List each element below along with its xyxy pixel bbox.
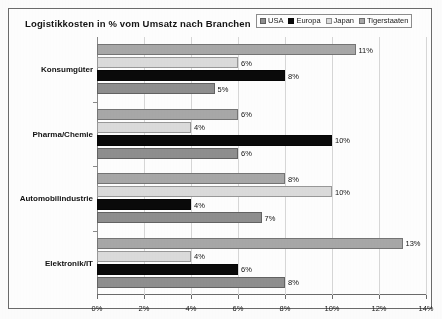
bar-usa-2[interactable]	[97, 212, 262, 223]
bar-value-label: 6%	[238, 110, 252, 119]
bar-usa-0[interactable]	[97, 83, 215, 94]
plot-inner: 0%2%4%6%8%10%12%14%11%6%8%5%6%4%10%6%8%1…	[97, 37, 426, 295]
bar-europa-2[interactable]	[97, 199, 191, 210]
axis-tick	[238, 295, 239, 299]
bar-value-label: 10%	[332, 136, 350, 145]
bar-row: 4%	[97, 251, 426, 262]
x-tick-label: 2%	[139, 304, 150, 313]
bar-value-label: 8%	[285, 278, 299, 287]
bar-value-label: 8%	[285, 71, 299, 80]
plot-area: 0%2%4%6%8%10%12%14%11%6%8%5%6%4%10%6%8%1…	[97, 37, 426, 295]
bar-value-label: 5%	[215, 84, 229, 93]
grid-line	[426, 37, 427, 295]
bar-japan-1[interactable]	[97, 122, 191, 133]
bar-europa-1[interactable]	[97, 135, 332, 146]
bar-usa-3[interactable]	[97, 277, 285, 288]
axis-tick	[144, 295, 145, 299]
bar-value-label: 11%	[356, 45, 373, 54]
bar-row: 4%	[97, 122, 426, 133]
bar-row: 5%	[97, 83, 426, 94]
bar-group: 11%6%8%5%	[97, 37, 426, 102]
bar-value-label: 4%	[191, 252, 205, 261]
bar-row: 10%	[97, 186, 426, 197]
bar-europa-3[interactable]	[97, 264, 238, 275]
bar-value-label: 8%	[285, 174, 299, 183]
bar-row: 8%	[97, 70, 426, 81]
category-label-0: Konsumgüter	[41, 65, 93, 74]
bar-row: 7%	[97, 212, 426, 223]
bar-row: 8%	[97, 277, 426, 288]
category-label-1: Pharma/Chemie	[33, 129, 93, 138]
legend-swatch-icon	[359, 18, 365, 24]
legend-item-tigerstaaten[interactable]: Tigerstaaten	[359, 17, 408, 25]
axis-tick	[426, 295, 427, 299]
x-tick-label: 12%	[371, 304, 386, 313]
bar-tigerstaaten-3[interactable]	[97, 238, 403, 249]
legend-label: Japan	[334, 17, 354, 25]
bar-group: 6%4%10%6%	[97, 102, 426, 167]
bar-japan-0[interactable]	[97, 57, 238, 68]
chart-frame: Logistikkosten in % vom Umsatz nach Bran…	[8, 8, 432, 309]
bar-value-label: 10%	[332, 187, 350, 196]
bar-row: 6%	[97, 109, 426, 120]
axis-tick	[97, 295, 98, 299]
legend-label: Tigerstaaten	[367, 17, 408, 25]
legend-swatch-icon	[260, 18, 266, 24]
bar-value-label: 7%	[262, 213, 276, 222]
legend-item-europa[interactable]: Europa	[288, 17, 320, 25]
bar-group: 8%10%4%7%	[97, 166, 426, 231]
bar-value-label: 13%	[403, 239, 421, 248]
bar-tigerstaaten-1[interactable]	[97, 109, 238, 120]
category-label-2: Automobilindustrie	[20, 194, 93, 203]
legend-swatch-icon	[326, 18, 332, 24]
legend-label: USA	[268, 17, 283, 25]
bar-row: 4%	[97, 199, 426, 210]
bar-tigerstaaten-0[interactable]	[97, 44, 356, 55]
bar-value-label: 6%	[238, 149, 252, 158]
bar-tigerstaaten-2[interactable]	[97, 173, 285, 184]
bar-value-label: 4%	[191, 200, 205, 209]
x-tick-label: 8%	[280, 304, 291, 313]
x-tick-label: 14%	[418, 304, 433, 313]
bar-usa-1[interactable]	[97, 148, 238, 159]
bar-row: 13%	[97, 238, 426, 249]
x-tick-label: 0%	[92, 304, 103, 313]
bar-row: 8%	[97, 173, 426, 184]
chart-legend: USAEuropaJapanTigerstaaten	[256, 14, 412, 28]
legend-swatch-icon	[288, 18, 294, 24]
bar-europa-0[interactable]	[97, 70, 285, 81]
bar-row: 6%	[97, 264, 426, 275]
bar-row: 10%	[97, 135, 426, 146]
bar-value-label: 4%	[191, 123, 205, 132]
legend-label: Europa	[296, 17, 320, 25]
bar-group: 13%4%6%8%	[97, 231, 426, 296]
axis-tick	[191, 295, 192, 299]
bar-japan-2[interactable]	[97, 186, 332, 197]
bar-value-label: 6%	[238, 58, 252, 67]
axis-tick	[332, 295, 333, 299]
bar-value-label: 6%	[238, 265, 252, 274]
bar-japan-3[interactable]	[97, 251, 191, 262]
bar-row: 6%	[97, 148, 426, 159]
x-tick-label: 10%	[324, 304, 339, 313]
x-tick-label: 4%	[186, 304, 197, 313]
category-label-3: Elektronik/IT	[45, 258, 93, 267]
axis-tick	[285, 295, 286, 299]
bar-row: 11%	[97, 44, 426, 55]
axis-tick	[379, 295, 380, 299]
x-tick-label: 6%	[233, 304, 244, 313]
bar-row: 6%	[97, 57, 426, 68]
chart-title: Logistikkosten in % vom Umsatz nach Bran…	[25, 18, 251, 29]
legend-item-usa[interactable]: USA	[260, 17, 283, 25]
legend-item-japan[interactable]: Japan	[326, 17, 354, 25]
category-axis: KonsumgüterPharma/ChemieAutomobilindustr…	[9, 37, 97, 295]
